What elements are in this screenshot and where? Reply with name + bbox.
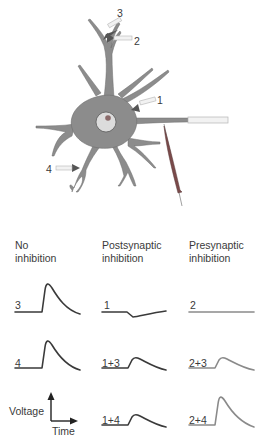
trace-label: 3 — [15, 299, 21, 311]
trace-label: 1 — [104, 299, 110, 311]
trace-2: 2 — [189, 299, 254, 312]
header-no-inhibition-line2: inhibition — [15, 252, 57, 264]
synapse-label-4: 4 — [46, 163, 52, 175]
trace-1-plus-3: 1+3 — [102, 357, 166, 370]
voltage-arrow-icon — [48, 392, 55, 421]
synapse-label-1: 1 — [157, 94, 163, 106]
trace-2-plus-4: 2+4 — [189, 397, 254, 427]
time-axis-label: Time — [52, 425, 75, 437]
header-postsynaptic-line2: inhibition — [102, 252, 144, 264]
header-no-inhibition-line1: No — [15, 239, 29, 251]
trace-1-plus-4: 1+4 — [102, 414, 166, 427]
recording-electrode — [164, 124, 182, 206]
trace-1: 1 — [102, 299, 166, 317]
trace-2-plus-3: 2+3 — [189, 357, 254, 370]
time-arrow-icon — [51, 418, 78, 425]
header-postsynaptic-line1: Postsynaptic — [102, 239, 162, 251]
header-presynaptic-line1: Presynaptic — [189, 239, 244, 251]
column-headers: No inhibition Postsynaptic inhibition Pr… — [15, 239, 244, 264]
nucleolus — [105, 115, 111, 121]
synapse-label-2: 2 — [134, 35, 140, 47]
neuron: 3 2 1 4 — [36, 7, 228, 206]
voltage-axis-label: Voltage — [9, 405, 44, 417]
inhibition-diagram: 3 2 1 4 No inhibition Postsynaptic inhib… — [0, 0, 278, 439]
synapse-4: 4 — [46, 163, 80, 175]
trace-3: 3 — [15, 284, 80, 314]
axes-legend: Voltage Time — [9, 392, 78, 437]
header-presynaptic-line2: inhibition — [189, 252, 231, 264]
trace-label: 2 — [190, 299, 196, 311]
axon-myelin-tube — [188, 117, 228, 123]
trace-4: 4 — [15, 341, 80, 370]
synapse-label-3: 3 — [117, 7, 123, 19]
nucleus — [96, 112, 116, 132]
axon — [132, 118, 188, 124]
